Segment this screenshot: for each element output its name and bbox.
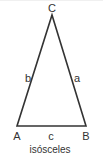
vertex-label-a: A [13,130,21,142]
side-label-c: c [48,130,54,142]
diagram-caption: isósceles [29,144,70,155]
vertex-label-c: C [48,2,56,14]
side-label-b: b [25,72,31,84]
side-label-a: a [74,72,81,84]
triangle-shape [17,15,86,126]
isosceles-triangle-diagram: C b a A c B isósceles [0,0,103,168]
vertex-label-b: B [82,130,89,142]
